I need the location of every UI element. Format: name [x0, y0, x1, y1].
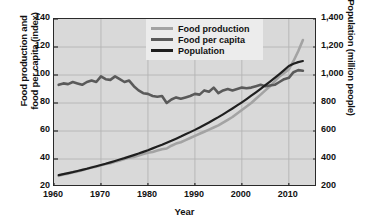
y-axis-right-tick-label: 1,200 [321, 40, 361, 50]
x-axis-tick-label: 1960 [31, 189, 75, 199]
legend-item: Population [151, 45, 258, 56]
legend-swatch-icon [151, 49, 173, 52]
y-axis-left-tick-label: 40 [10, 152, 50, 162]
y-axis-right-tick-label: 400 [321, 152, 361, 162]
y-axis-right-tick-label: 800 [321, 96, 361, 106]
legend-label: Population [178, 46, 225, 56]
x-axis-tick-label: 2010 [266, 189, 310, 199]
chart-figure: Food production and food per capita (ind… [0, 0, 374, 222]
legend-swatch-icon [151, 38, 173, 41]
y-axis-left-tick-label: 80 [10, 96, 50, 106]
legend-label: Food per capita [178, 35, 245, 45]
x-axis-title: Year [53, 206, 316, 217]
x-axis-tick-label: 2000 [219, 189, 263, 199]
legend-swatch-icon [151, 27, 173, 30]
y-axis-right-tick-label: 1,000 [321, 68, 361, 78]
x-axis-tick-label: 1970 [78, 189, 122, 199]
y-axis-left-title-line1: Food production and [18, 15, 29, 106]
x-axis-tick-label: 1990 [172, 189, 216, 199]
x-axis-tick-label: 1980 [125, 189, 169, 199]
legend-item: Food per capita [151, 34, 258, 45]
y-axis-left-tick-label: 60 [10, 124, 50, 134]
series-line [59, 61, 303, 175]
chart-legend: Food productionFood per capitaPopulation [146, 19, 263, 60]
y-axis-left-tick-label: 140 [10, 12, 50, 22]
series-line [59, 40, 303, 176]
y-axis-left-tick-label: 120 [10, 40, 50, 50]
y-axis-left-tick-label: 100 [10, 68, 50, 78]
y-axis-right-tick-label: 1,400 [321, 12, 361, 22]
y-axis-right-tick-label: 200 [321, 180, 361, 190]
y-axis-right-tick-label: 600 [321, 124, 361, 134]
legend-label: Food production [178, 24, 249, 34]
legend-item: Food production [151, 23, 258, 34]
